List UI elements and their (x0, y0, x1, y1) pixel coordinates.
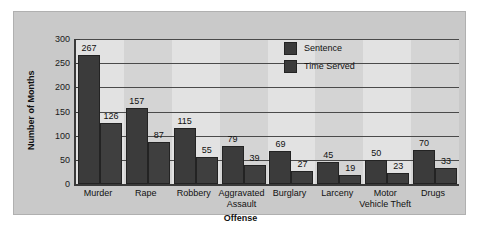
bar-value-label: 45 (311, 151, 345, 160)
bar-value-label: 27 (285, 160, 319, 169)
bar-value-label: 19 (333, 164, 367, 173)
plot-area: 267126157871155579396927451950237033 (74, 39, 459, 186)
bar-value-label: 126 (94, 112, 128, 121)
x-axis-title: Offense (14, 213, 467, 223)
y-tick-label: 50 (26, 156, 70, 165)
y-tick-label: 150 (26, 108, 70, 117)
bar-time-served (148, 142, 170, 184)
bar-value-label: 39 (238, 154, 272, 163)
bar-value-label: 157 (120, 97, 154, 106)
legend-label-time-served: Time Served (304, 61, 355, 71)
bar-value-label: 115 (168, 117, 202, 126)
gridline (76, 63, 459, 64)
chart-figure: Number of Months 050100150200250300 2671… (0, 0, 480, 229)
gridline (76, 87, 459, 88)
legend-swatch-sentence (284, 42, 297, 55)
bar-value-label: 50 (359, 149, 393, 158)
y-tick-mark (76, 39, 80, 40)
y-tick-label: 250 (26, 59, 70, 68)
bar-time-served (196, 157, 218, 184)
bar-value-label: 23 (381, 162, 415, 171)
bar-value-label: 69 (263, 140, 297, 149)
bar-value-label: 55 (190, 146, 224, 155)
legend-swatch-time-served (284, 60, 297, 73)
bar-time-served (244, 165, 266, 184)
bar-value-label: 79 (216, 135, 250, 144)
bar-time-served (100, 123, 122, 184)
bar-value-label: 33 (429, 157, 463, 166)
bar-time-served (339, 175, 361, 184)
bar-time-served (435, 168, 457, 184)
bar-value-label: 267 (72, 44, 106, 53)
bar-value-label: 87 (142, 131, 176, 140)
y-tick-mark (76, 184, 80, 185)
bar-time-served (291, 171, 313, 184)
legend-label-sentence: Sentence (304, 43, 342, 53)
y-tick-label: 100 (26, 132, 70, 141)
bar-sentence (413, 150, 435, 184)
bar-sentence (174, 128, 196, 184)
chart-panel: Number of Months 050100150200250300 2671… (13, 11, 466, 215)
bar-time-served (387, 173, 409, 184)
y-tick-label: 300 (26, 35, 70, 44)
bar-sentence (126, 108, 148, 184)
y-tick-label: 200 (26, 83, 70, 92)
gridline (76, 39, 459, 40)
x-tick-label: Drugs (399, 188, 467, 199)
bar-sentence (222, 146, 244, 184)
bar-value-label: 70 (407, 139, 441, 148)
